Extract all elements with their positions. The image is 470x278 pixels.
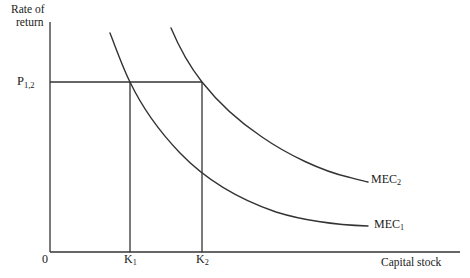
price-tick-label: P1,2: [17, 74, 35, 88]
mec2-curve-label: MEC2: [371, 173, 401, 186]
mec1-label-subscript: 1: [400, 223, 404, 232]
y-axis-title-line2: return: [11, 16, 45, 29]
y-axis-title: Rate ofreturn: [11, 3, 45, 29]
k1-tick-subscript: 1: [133, 258, 137, 267]
k1-tick-base: K: [124, 252, 133, 266]
price-tick-base: P: [17, 74, 24, 88]
k2-tick-base: K: [196, 252, 205, 266]
mec-diagram-figure: Rate ofreturn Capital stock P1,2 0 K1 K2…: [0, 0, 470, 278]
mec2-label-subscript: 2: [397, 178, 401, 187]
k2-tick-label: K2: [196, 253, 209, 266]
origin-label: 0: [42, 253, 48, 266]
k2-tick-subscript: 2: [205, 258, 209, 267]
mec2-label-base: MEC: [371, 172, 397, 186]
price-tick-subscript: 1,2: [24, 80, 35, 90]
k1-tick-label: K1: [124, 253, 137, 266]
plot-area: [0, 0, 470, 278]
mec1-label-base: MEC: [374, 217, 400, 231]
mec2-curve: [171, 28, 368, 182]
mec1-curve: [110, 33, 368, 226]
y-axis-title-line1: Rate of: [11, 3, 45, 15]
x-axis-title: Capital stock: [381, 256, 441, 269]
mec1-curve-label: MEC1: [374, 218, 404, 231]
